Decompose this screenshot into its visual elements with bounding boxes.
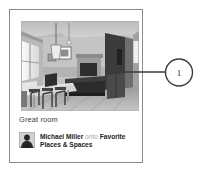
attribution-text: Michael Miller onto Favorite Places & Sp… <box>40 132 137 150</box>
user-avatar[interactable] <box>19 132 35 148</box>
attribution-connector: onto <box>85 133 98 140</box>
pin-attribution: Michael Miller onto Favorite Places & Sp… <box>19 132 137 150</box>
screenshot-root: Great room Michael Miller onto Favorite … <box>0 0 202 175</box>
pin-caption: Great room <box>19 115 135 124</box>
interior-room-photo[interactable] <box>21 21 139 111</box>
callout-number: 1 <box>165 59 193 87</box>
interior-room-photo-graphic <box>21 21 139 111</box>
user-avatar-graphic <box>19 132 35 148</box>
pin-card[interactable]: Great room Michael Miller onto Favorite … <box>9 9 143 163</box>
attribution-user[interactable]: Michael Miller <box>40 133 83 140</box>
